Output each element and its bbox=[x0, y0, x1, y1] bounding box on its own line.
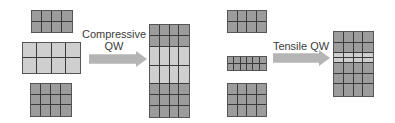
lattice-cell bbox=[247, 95, 257, 106]
lattice-cell bbox=[179, 66, 189, 85]
lattice-cell bbox=[160, 106, 170, 117]
lattice-cell bbox=[150, 25, 160, 36]
lattice-cell bbox=[150, 66, 160, 85]
lattice-cell bbox=[354, 43, 364, 54]
lattice-cell bbox=[62, 22, 72, 33]
tensile-top-barrier-block-grid bbox=[228, 11, 266, 32]
lattice-cell bbox=[257, 11, 267, 22]
lattice-cell bbox=[363, 84, 373, 96]
lattice-cell bbox=[160, 84, 170, 95]
lattice-cell bbox=[32, 22, 42, 33]
lattice-cell bbox=[238, 95, 248, 106]
tensile-top-barrier-block bbox=[227, 10, 267, 33]
lattice-cell bbox=[170, 25, 180, 36]
lattice-cell bbox=[179, 47, 189, 66]
compressive-qw-label: Compressive QW bbox=[82, 28, 146, 52]
lattice-cell bbox=[160, 25, 170, 36]
lattice-cell bbox=[344, 43, 354, 54]
lattice-cell bbox=[354, 32, 364, 43]
compressive-well-layer-block bbox=[22, 42, 81, 74]
lattice-cell bbox=[32, 11, 42, 22]
lattice-cell bbox=[170, 95, 180, 106]
lattice-cell bbox=[354, 74, 364, 85]
lattice-cell bbox=[247, 105, 257, 116]
lattice-cell bbox=[334, 84, 344, 96]
lattice-cell bbox=[160, 47, 170, 66]
lattice-cell bbox=[228, 11, 238, 22]
lattice-cell bbox=[260, 64, 266, 71]
lattice-cell bbox=[179, 36, 189, 47]
compressive-qw-label-line1: Compressive bbox=[82, 28, 146, 40]
lattice-cell bbox=[179, 106, 189, 117]
lattice-cell bbox=[354, 84, 364, 96]
lattice-cell bbox=[41, 105, 51, 116]
lattice-cell bbox=[247, 22, 257, 33]
lattice-cell bbox=[247, 84, 257, 95]
lattice-cell bbox=[51, 84, 61, 95]
lattice-cell bbox=[354, 63, 364, 74]
lattice-cell bbox=[228, 84, 238, 95]
compressive-result-stack-grid bbox=[150, 25, 189, 117]
tensile-result-stack bbox=[333, 31, 374, 97]
compressive-well-layer-block-grid bbox=[23, 43, 80, 73]
tensile-result-stack-grid bbox=[334, 32, 373, 96]
lattice-cell bbox=[31, 84, 41, 95]
tensile-bottom-barrier-block bbox=[227, 83, 267, 117]
lattice-cell bbox=[228, 95, 238, 106]
lattice-cell bbox=[238, 105, 248, 116]
tensile-bottom-barrier-block-grid bbox=[228, 84, 266, 116]
lattice-cell bbox=[42, 22, 52, 33]
lattice-cell bbox=[334, 74, 344, 85]
lattice-cell bbox=[52, 58, 66, 73]
lattice-cell bbox=[257, 95, 267, 106]
lattice-cell bbox=[170, 84, 180, 95]
compressive-top-barrier-block bbox=[31, 10, 73, 33]
tensile-qw-label-line1: Tensile QW bbox=[270, 40, 332, 52]
lattice-cell bbox=[334, 43, 344, 54]
lattice-cell bbox=[160, 36, 170, 47]
compressive-bottom-barrier-block-grid bbox=[31, 84, 71, 116]
lattice-cell bbox=[170, 36, 180, 47]
lattice-cell bbox=[228, 22, 238, 33]
lattice-cell bbox=[66, 58, 80, 73]
lattice-cell bbox=[363, 32, 373, 43]
lattice-cell bbox=[179, 25, 189, 36]
lattice-cell bbox=[247, 11, 257, 22]
lattice-cell bbox=[344, 32, 354, 43]
tensile-arrow-icon bbox=[273, 50, 330, 66]
lattice-cell bbox=[179, 95, 189, 106]
lattice-cell bbox=[363, 74, 373, 85]
lattice-cell bbox=[150, 36, 160, 47]
compressive-bottom-barrier-block bbox=[30, 83, 72, 117]
lattice-cell bbox=[150, 84, 160, 95]
compressive-top-barrier-block-grid bbox=[32, 11, 72, 32]
lattice-cell bbox=[160, 95, 170, 106]
lattice-cell bbox=[363, 43, 373, 54]
lattice-cell bbox=[23, 43, 37, 58]
lattice-cell bbox=[23, 58, 37, 73]
tensile-well-layer-block bbox=[227, 56, 267, 71]
lattice-cell bbox=[257, 105, 267, 116]
lattice-cell bbox=[150, 106, 160, 117]
lattice-cell bbox=[41, 84, 51, 95]
lattice-cell bbox=[37, 58, 51, 73]
lattice-cell bbox=[61, 95, 71, 106]
lattice-cell bbox=[160, 66, 170, 85]
lattice-cell bbox=[31, 105, 41, 116]
compressive-qw-label-line2: QW bbox=[82, 40, 146, 52]
tensile-qw-label: Tensile QW bbox=[270, 40, 332, 52]
lattice-cell bbox=[238, 11, 248, 22]
lattice-cell bbox=[51, 105, 61, 116]
lattice-cell bbox=[170, 66, 180, 85]
lattice-cell bbox=[344, 63, 354, 74]
compressive-result-stack bbox=[149, 24, 190, 118]
lattice-cell bbox=[257, 22, 267, 33]
lattice-cell bbox=[31, 95, 41, 106]
lattice-cell bbox=[52, 11, 62, 22]
lattice-cell bbox=[52, 43, 66, 58]
lattice-cell bbox=[51, 95, 61, 106]
lattice-cell bbox=[334, 32, 344, 43]
lattice-cell bbox=[170, 47, 180, 66]
lattice-cell bbox=[238, 22, 248, 33]
lattice-cell bbox=[62, 11, 72, 22]
